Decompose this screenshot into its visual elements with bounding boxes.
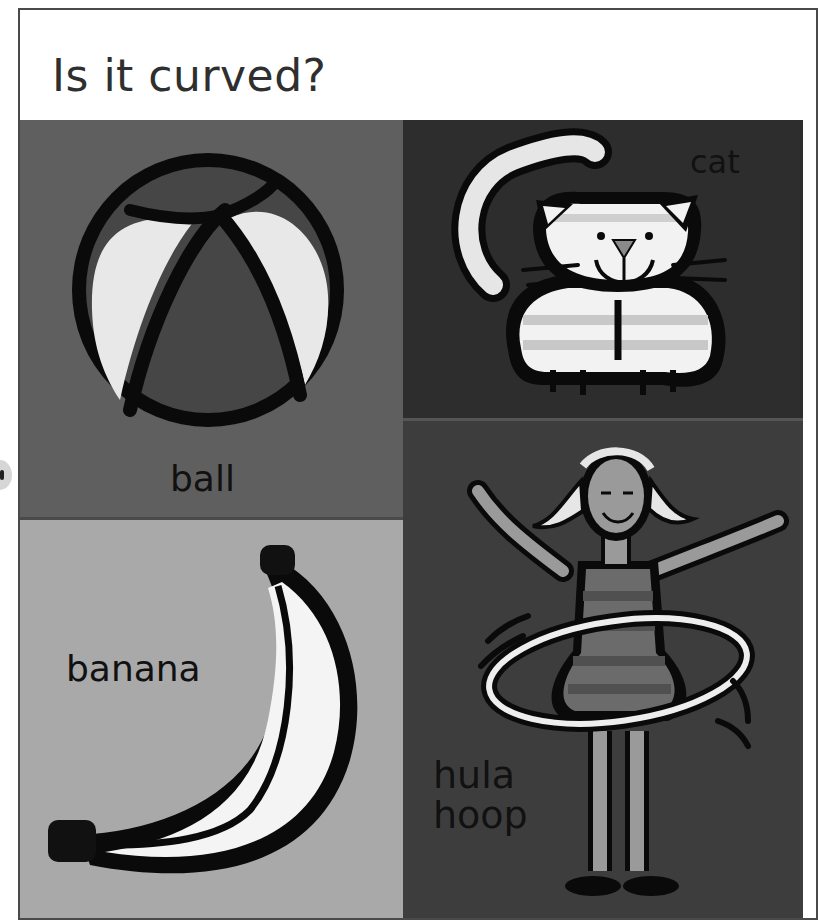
hula-hoop-girl-illustration [403, 421, 803, 918]
label-cat: cat [690, 146, 740, 180]
banana-illustration [20, 520, 403, 918]
label-banana: banana [66, 650, 201, 688]
panel-cat: cat [403, 120, 803, 418]
panel-banana: banana [20, 517, 403, 918]
title-band: Is it curved? [20, 10, 803, 120]
cat-illustration [403, 120, 803, 418]
page-number-mark [0, 470, 4, 480]
panel-ball: ball [20, 120, 403, 517]
label-hula-hoop: hula hoop [433, 756, 528, 836]
page-title: Is it curved? [52, 50, 326, 101]
label-ball: ball [170, 460, 235, 498]
label-hula: hula [433, 756, 528, 796]
panel-hula-hoop: hula hoop [403, 418, 803, 918]
label-hoop: hoop [433, 796, 528, 836]
